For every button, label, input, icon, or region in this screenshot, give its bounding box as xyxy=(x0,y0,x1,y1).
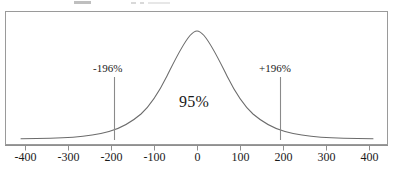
plot-canvas xyxy=(0,0,397,171)
x-tick-label: -300 xyxy=(46,150,92,165)
x-tick-label: 0 xyxy=(175,150,221,165)
normal-curve-path xyxy=(21,31,373,139)
x-tick-label: 100 xyxy=(218,150,264,165)
x-tick-label: 400 xyxy=(347,150,393,165)
x-tick-label: -200 xyxy=(89,150,135,165)
x-tick-label: 200 xyxy=(261,150,307,165)
confidence-label: 95% xyxy=(179,93,209,111)
lower-bound-label: -196% xyxy=(93,62,122,74)
distribution-figure: -196% +196% 95% -400 -300 -200 -100 0 10… xyxy=(0,0,397,171)
x-tick-label: -400 xyxy=(3,150,49,165)
x-tick-label: 300 xyxy=(304,150,350,165)
x-tick-label: -100 xyxy=(132,150,178,165)
upper-bound-label: +196% xyxy=(259,62,291,74)
